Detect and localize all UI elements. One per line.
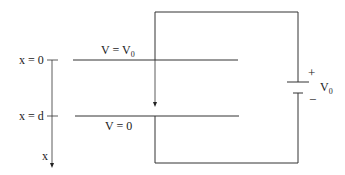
circuit-wire-top	[155, 12, 298, 82]
battery-voltage-label: V0	[320, 81, 333, 96]
battery-plus-sign: +	[308, 66, 315, 79]
label-x-d: x = d	[19, 110, 44, 122]
circuit-diagram	[0, 0, 345, 175]
circuit-wire-bottom	[155, 93, 298, 163]
label-bottom-plate-voltage: V = 0	[105, 120, 132, 132]
label-x-axis: x	[42, 150, 48, 162]
label-x-zero: x = 0	[19, 54, 44, 66]
label-top-plate-voltage: V = V0	[101, 44, 135, 59]
x-axis-arrow-head	[50, 163, 54, 168]
field-arrow-head	[153, 102, 157, 107]
battery-minus-sign: −	[309, 93, 316, 106]
